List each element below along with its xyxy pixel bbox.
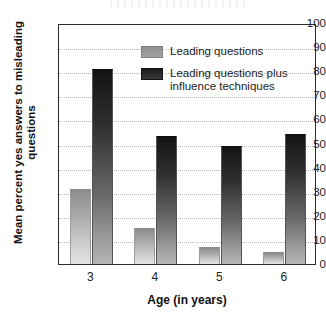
y-axis-title: Mean percent yes answers to misleading q… <box>12 8 37 258</box>
legend-label: Leading questions <box>170 45 263 58</box>
y-tick-label: 50 <box>276 139 326 150</box>
y-tick-label: 100 <box>276 18 326 29</box>
y-tick-label: 0 <box>276 259 326 270</box>
y-tick-label: 20 <box>276 211 326 222</box>
y-tick-label: 70 <box>276 90 326 101</box>
bar-leading-questions-age-3 <box>70 189 91 264</box>
bar-chart-figure: Mean percent yes answers to misleading q… <box>0 0 326 317</box>
bar-leading-questions-age-5 <box>199 247 220 264</box>
cropped-title-artifact <box>110 1 250 8</box>
x-axis-title: Age (in years) <box>58 293 316 307</box>
x-tick-label: 3 <box>70 270 110 284</box>
y-axis: Mean percent yes answers to misleading q… <box>0 0 54 317</box>
y-tick-label: 60 <box>276 114 326 125</box>
y-tick-label: 90 <box>276 42 326 53</box>
y-tick-label: 40 <box>276 163 326 174</box>
x-tick-label: 4 <box>135 270 175 284</box>
bar-leading-questions-age-4 <box>134 228 155 264</box>
bar-leading-questions-plus-influence-techniques-age-4 <box>156 136 177 264</box>
y-tick-label: 10 <box>276 235 326 246</box>
legend-swatch-light-gray <box>141 46 163 58</box>
x-tick-label: 6 <box>264 270 304 284</box>
y-tick-label: 80 <box>276 66 326 77</box>
bar-leading-questions-plus-influence-techniques-age-3 <box>92 69 113 264</box>
y-tick-label: 30 <box>276 187 326 198</box>
legend-swatch-dark-gray <box>141 68 163 80</box>
bar-leading-questions-plus-influence-techniques-age-5 <box>221 146 242 264</box>
x-tick-label: 5 <box>199 270 239 284</box>
